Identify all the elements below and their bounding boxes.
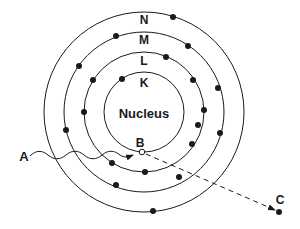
electrons-k [119,76,125,82]
vacancy-b [139,149,145,155]
shell-label-k: K [140,76,149,90]
point-label-a: A [19,149,29,164]
atom-diagram: N M L K Nucleus A [0,0,300,229]
electron [90,77,96,83]
wavy-photon-path [30,151,133,159]
dashed-ejection-path [146,154,275,210]
electron [150,208,156,214]
electron [185,43,191,49]
electron [217,130,223,136]
electron [113,33,119,39]
electron [215,85,221,91]
electron [170,14,176,20]
shell-label-n: N [140,13,149,27]
electron [190,77,196,83]
electron [81,109,87,115]
electron [195,122,201,128]
electron [113,182,119,188]
electron [76,63,82,69]
point-label-b: B [136,136,145,150]
shell-label-l: L [140,54,147,68]
point-label-c: C [276,193,285,207]
electron [119,76,125,82]
electron [163,54,169,60]
electron [142,169,148,175]
electron [176,174,182,180]
electron [63,127,69,133]
electron [201,107,207,113]
ejected-electron-c [276,209,282,215]
electron [189,141,195,147]
shell-label-m: M [139,33,149,47]
electron [109,160,115,166]
nucleus-label: Nucleus [119,106,170,121]
